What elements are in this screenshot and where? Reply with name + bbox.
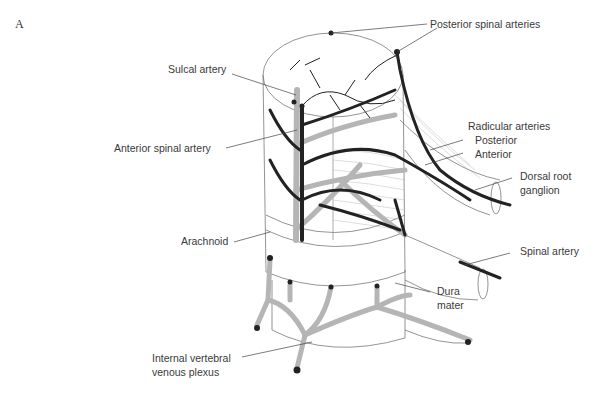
label-posterior-spinal-arteries: Posterior spinal arteries (430, 18, 540, 31)
label-venous-plexus-line2: venous plexus (152, 366, 219, 379)
label-dorsal-root-ganglion-line1: Dorsal root (520, 170, 571, 183)
label-radicular-arteries: Radicular arteries (468, 120, 550, 133)
cord-top-surface (263, 33, 403, 117)
spinal-cord-diagram (0, 0, 609, 398)
label-spinal-artery: Spinal artery (520, 245, 579, 258)
label-anterior-spinal-artery: Anterior spinal artery (114, 142, 211, 155)
label-dura-mater-line1: Dura (437, 285, 460, 298)
label-radicular-anterior: Anterior (475, 148, 512, 161)
label-dura-mater-line2: mater (437, 299, 464, 312)
label-dorsal-root-ganglion-line2: ganglion (520, 184, 560, 197)
anatomy-illustration (0, 0, 609, 398)
label-arachnoid: Arachnoid (181, 235, 228, 248)
panel-label: A (15, 17, 24, 32)
label-venous-plexus-line1: Internal vertebral (152, 352, 231, 365)
label-radicular-posterior: Posterior (475, 134, 517, 147)
label-sulcal-artery: Sulcal artery (168, 63, 226, 76)
